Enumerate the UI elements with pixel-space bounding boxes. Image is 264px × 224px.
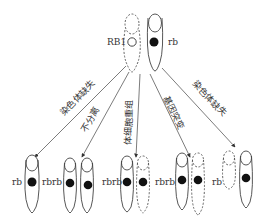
top-chromosome-pair: RB1 rb	[107, 14, 178, 72]
outcome-5: rb	[212, 151, 252, 208]
mechanism-label-2: 不分离	[78, 105, 101, 134]
rb-top-label: rb	[168, 37, 178, 47]
mechanism-label-5: 染色体缺失	[191, 78, 230, 118]
rb1-allele-hollow	[128, 38, 136, 46]
arrow-1	[35, 66, 126, 157]
rb1-label: RB1	[107, 37, 126, 47]
outcome-1-label: rb	[12, 177, 22, 187]
outcome-1: rb	[12, 155, 39, 213]
rb-chromosome-solid	[147, 14, 162, 71]
rb1-chromosome-dashed	[124, 14, 141, 72]
diagram-canvas: RB1 rb 染色体缺失 不分离 体细胞重组 基因突变 染色体缺失 rb rbr…	[0, 0, 264, 224]
outcome-3: rbrb	[102, 156, 149, 213]
outcome-4-label: rbrb	[155, 177, 175, 187]
arrow-3	[136, 74, 140, 157]
outcome-2-label: rbrb	[42, 177, 62, 187]
rb-allele-filled	[150, 38, 159, 47]
outcome-5-label: rb	[212, 177, 222, 187]
mechanism-label-3: 体细胞重组	[122, 100, 135, 145]
outcome-3-label: rbrb	[102, 177, 122, 187]
mechanism-labels: 染色体缺失 不分离 体细胞重组 基因突变 染色体缺失	[58, 77, 230, 145]
mechanism-label-4: 基因突变	[161, 94, 187, 131]
outcome-4: rbrb	[155, 153, 204, 215]
outcome-2: rbrb	[42, 158, 93, 213]
